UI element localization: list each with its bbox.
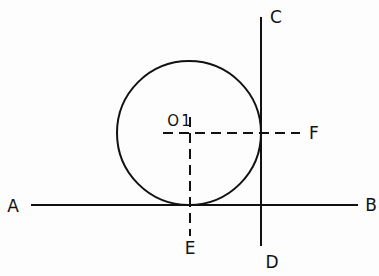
label-a: A bbox=[7, 198, 19, 215]
label-c: C bbox=[270, 9, 282, 26]
label-d: D bbox=[265, 254, 278, 271]
diagram-drawing bbox=[0, 0, 379, 276]
label-e: E bbox=[185, 240, 196, 257]
label-b: B bbox=[365, 197, 377, 214]
diagram-canvas: A B C D E F O1 bbox=[0, 0, 379, 276]
label-o1: O1 bbox=[167, 114, 192, 129]
label-f: F bbox=[309, 125, 319, 142]
